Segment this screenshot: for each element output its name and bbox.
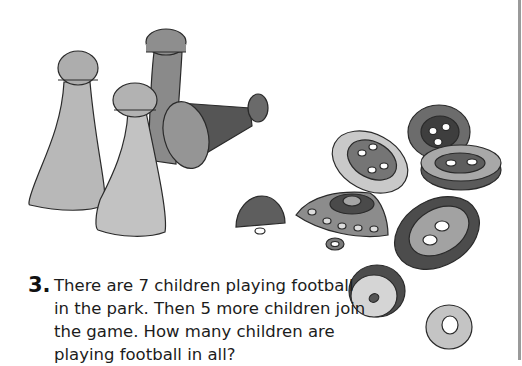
ring-button-icon bbox=[426, 305, 472, 349]
pawn-front-icon bbox=[96, 83, 166, 236]
oval-two-hole-button-icon bbox=[382, 182, 493, 284]
two-hole-ribbed-button-icon bbox=[421, 145, 501, 190]
question-text: There are 7 children playing football in… bbox=[54, 274, 368, 366]
page-edge-divider bbox=[518, 0, 521, 360]
shank-button-icon bbox=[296, 192, 388, 250]
question-number: 3. bbox=[28, 274, 51, 297]
half-dome-button-icon bbox=[236, 196, 285, 234]
question-3: 3. There are 7 children playing football… bbox=[28, 274, 368, 366]
pawn-left-icon bbox=[29, 51, 105, 210]
